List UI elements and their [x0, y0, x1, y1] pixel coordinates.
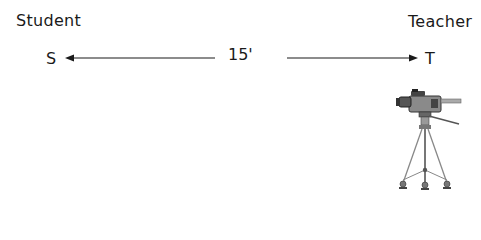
right-arrow-icon	[287, 55, 418, 62]
left-arrow-icon	[65, 55, 215, 62]
video-camera-on-tripod-icon	[395, 88, 475, 193]
